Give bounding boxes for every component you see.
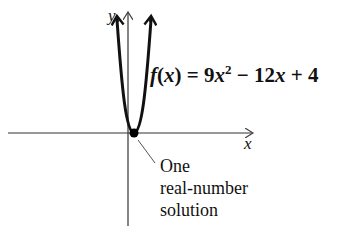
- vertex-point: [130, 129, 139, 138]
- x-axis-label: x: [244, 134, 252, 154]
- note-line-2: real-number: [160, 177, 248, 199]
- leader-line: [138, 140, 155, 163]
- eq-x1: x: [164, 63, 175, 87]
- parabola-curve: [117, 20, 151, 133]
- note-line-3: solution: [160, 199, 248, 221]
- eq-end: + 4: [285, 63, 318, 87]
- eq-x3: x: [275, 63, 286, 87]
- eq-mid: − 12: [231, 63, 274, 87]
- function-equation: f(x) = 9x2 − 12x + 4: [150, 62, 318, 88]
- eq-f: f: [150, 63, 157, 87]
- eq-rp: ): [175, 63, 182, 87]
- note-line-1: One: [160, 155, 248, 177]
- parabola-diagram: y x f(x) = 9x2 − 12x + 4 One real-number…: [0, 0, 352, 246]
- y-axis-label: y: [108, 6, 116, 26]
- eq-x2: x: [214, 63, 225, 87]
- eq-lp: (: [157, 63, 164, 87]
- solution-annotation: One real-number solution: [160, 155, 248, 221]
- eq-eq: = 9: [182, 63, 215, 87]
